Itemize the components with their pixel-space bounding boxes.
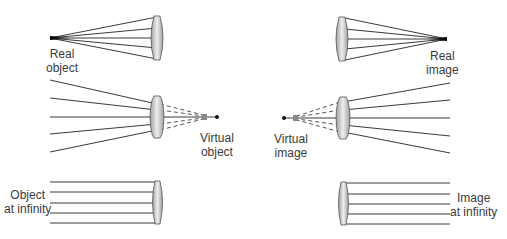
object-at-infinity-label: Objectat infinity [4,188,51,216]
lens-icon [339,182,349,225]
real-object-label: Realobject [46,47,78,75]
image-at-infinity-label: Imageat infinity [450,191,497,219]
lens-icon [150,96,164,138]
object-at-infinity-panel [50,181,163,224]
virtual-image-focus [293,115,298,121]
virtual-image-label: Virtualimage [274,132,308,160]
lens-icon [153,181,163,224]
virtual-object-panel [50,80,219,152]
virtual-object-point [215,115,219,119]
real-image-label: Realimage [426,49,459,77]
image-at-infinity-panel [339,182,451,225]
optics-diagram [0,0,507,239]
lens-icon [336,17,348,61]
lens-icon [151,16,163,60]
virtual-object-focus [202,114,207,120]
virtual-image-point [282,116,286,120]
lens-icon [336,97,350,139]
virtual-object-label: Virtualobject [200,131,234,159]
